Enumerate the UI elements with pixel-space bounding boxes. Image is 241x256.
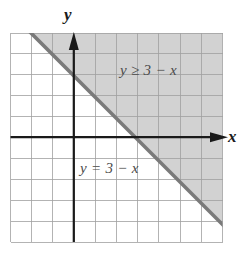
graph-figure: y x y ≥ 3 − x y = 3 − x: [0, 0, 241, 256]
coordinate-plane: [0, 0, 241, 256]
boundary-equation-annotation: y = 3 − x: [80, 161, 139, 176]
x-axis-label: x: [228, 128, 237, 145]
y-axis-label: y: [64, 6, 72, 23]
inequality-annotation: y ≥ 3 − x: [120, 63, 177, 78]
